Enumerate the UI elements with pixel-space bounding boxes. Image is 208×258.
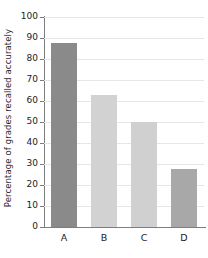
x-tick-label-B: B: [89, 232, 119, 244]
bar-B: [91, 95, 117, 227]
gridline-100: [44, 17, 204, 18]
y-tick-mark-20: [40, 185, 44, 186]
y-axis-tick-labels: 0102030405060708090100: [12, 0, 38, 258]
x-axis-tick-labels: ABCD: [44, 232, 204, 250]
y-tick-mark-50: [40, 122, 44, 123]
y-tick-mark-70: [40, 80, 44, 81]
y-tick-label-90: 90: [14, 33, 38, 42]
y-tick-label-80: 80: [14, 54, 38, 63]
y-tick-label-30: 30: [14, 159, 38, 168]
y-tick-label-20: 20: [14, 180, 38, 189]
x-tick-label-A: A: [49, 232, 79, 244]
x-tick-label-D: D: [169, 232, 199, 244]
y-tick-mark-60: [40, 101, 44, 102]
x-tick-label-C: C: [129, 232, 159, 244]
y-tick-label-100: 100: [14, 12, 38, 21]
gridline-0: [44, 227, 204, 228]
y-tick-mark-0: [40, 227, 44, 228]
plot-area: [44, 17, 204, 227]
bar-D: [171, 169, 197, 227]
y-tick-mark-80: [40, 59, 44, 60]
y-tick-mark-100: [40, 17, 44, 18]
y-tick-label-0: 0: [14, 222, 38, 231]
y-tick-label-50: 50: [14, 117, 38, 126]
y-tick-label-70: 70: [14, 75, 38, 84]
y-tick-label-60: 60: [14, 96, 38, 105]
y-tick-mark-30: [40, 164, 44, 165]
bar-C: [131, 122, 157, 227]
bar-chart: Percentage of grades recalled accurately…: [0, 0, 208, 258]
y-tick-mark-90: [40, 38, 44, 39]
y-tick-mark-10: [40, 206, 44, 207]
y-tick-label-10: 10: [14, 201, 38, 210]
y-tick-label-40: 40: [14, 138, 38, 147]
bar-A: [51, 43, 77, 227]
y-tick-mark-40: [40, 143, 44, 144]
gridline-90: [44, 38, 204, 39]
